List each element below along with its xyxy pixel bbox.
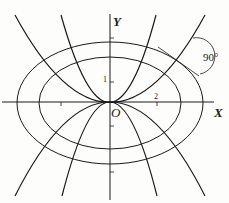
x-tick-label: 2 bbox=[154, 93, 158, 101]
y-tick-label: 1 bbox=[103, 76, 107, 84]
y-axis-label: Y bbox=[113, 15, 121, 28]
x-axis-label: X bbox=[214, 106, 223, 119]
orthogonal-trajectories-diagram bbox=[0, 0, 229, 203]
tangent-line bbox=[158, 47, 199, 76]
angle-label: 90° bbox=[203, 52, 218, 63]
origin-label: O bbox=[111, 106, 120, 119]
steep-upper-parabola bbox=[61, 15, 156, 103]
